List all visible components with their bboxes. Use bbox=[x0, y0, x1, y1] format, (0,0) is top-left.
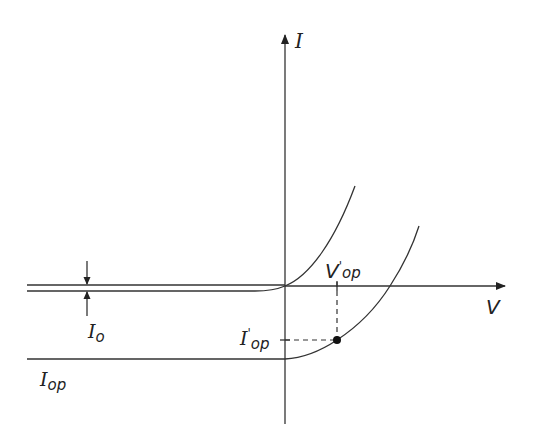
photocurrent-label: Iop bbox=[39, 368, 66, 394]
current-axis-label: I bbox=[294, 29, 304, 53]
illuminated-curve bbox=[27, 226, 419, 359]
op-voltage-label: V'op bbox=[325, 259, 361, 283]
operating-point-dot bbox=[333, 336, 341, 344]
dark-current-label: Io bbox=[87, 320, 105, 346]
voltage-axis-label: V bbox=[486, 295, 501, 319]
dark-curve bbox=[27, 186, 355, 291]
op-current-label: I'op bbox=[239, 327, 270, 353]
iv-characteristic-diagram: I V Io Iop I'op V'op bbox=[0, 0, 533, 434]
